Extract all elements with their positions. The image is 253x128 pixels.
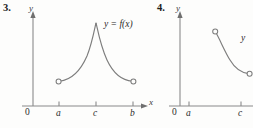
figure-4-y-axis-label: y	[176, 3, 180, 13]
figure-4-origin-label: 0	[172, 107, 177, 117]
x-axis-arrowhead	[141, 103, 148, 108]
figure-4-curve-label: y	[241, 33, 245, 43]
figure-4-tick-label-c: c	[238, 108, 242, 118]
figure-3-tick-label-a: a	[56, 108, 61, 118]
curve-left-branch	[60, 23, 96, 81]
curve-right-branch	[96, 23, 132, 81]
figure-3: 3. y x 0 a c b y = f(x)	[0, 0, 155, 128]
open-circle-at-b	[131, 79, 136, 84]
figure-3-x-axis-label: x	[149, 97, 153, 107]
open-circle-at-a	[56, 79, 61, 84]
open-circle-at-a	[213, 29, 218, 34]
figure-3-tick-label-c: c	[93, 108, 97, 118]
figure-3-origin-label: 0	[25, 107, 30, 117]
figure-3-tick-label-b: b	[130, 108, 135, 118]
open-circle-right-clipped	[247, 71, 252, 76]
figure-3-y-axis-label: y	[29, 3, 33, 13]
figure-page: 3. y x 0 a c b y = f(x) 4.	[0, 0, 253, 128]
figure-3-curve-label: y = f(x)	[104, 19, 133, 29]
figure-4: 4. y 0 a c y	[155, 0, 253, 128]
figure-4-tick-label-a: a	[186, 108, 191, 118]
